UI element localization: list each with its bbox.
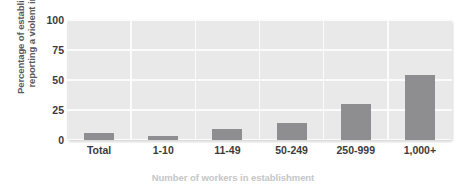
plot-area [67,20,452,140]
y-tick-label: 50 [26,74,64,86]
x-tick-label: 1-10 [131,144,195,157]
y-axis-title-line-1: Percentage of establishments [15,0,27,94]
x-tick-label: 1,000+ [388,144,452,157]
y-axis-tick-labels: 0255075100 [26,14,64,146]
gridline-vertical [387,20,389,140]
bar-1-000- [405,75,435,140]
x-tick-label: Total [67,144,131,157]
bar-chart-figure: Percentage of establishments reporting a… [0,0,466,192]
gridline-vertical [130,20,132,140]
y-tick-label: 100 [26,14,64,26]
y-tick-label: 75 [26,44,64,56]
gridline-vertical [323,20,325,140]
x-tick-label: 250-999 [324,144,388,157]
gridline-vertical [195,20,197,140]
bar-250-999 [341,104,371,140]
bar-1-10 [148,136,178,140]
y-tick-label: 0 [26,134,64,146]
y-tick-label: 25 [26,104,64,116]
bar-total [84,133,114,140]
x-axis-title: Number of workers in establishment [0,172,466,183]
gridline-vertical [259,20,261,140]
x-axis-tick-labels: Total1-1011-4950-249250-9991,000+ [67,144,452,158]
bar-50-249 [277,123,307,140]
bar-11-49 [212,129,242,140]
x-tick-label: 50-249 [260,144,324,157]
x-tick-label: 11-49 [195,144,259,157]
